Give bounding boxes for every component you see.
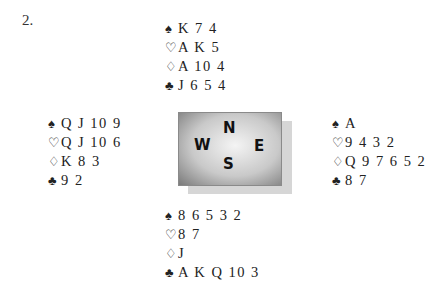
west-hand: ♠Q J 10 9 ♡Q J 10 6 ♢K 8 3 ♣9 2 — [48, 114, 122, 190]
south-clubs: ♣A K Q 10 3 — [165, 263, 260, 282]
heart-icon: ♡ — [48, 133, 61, 152]
diamond-icon: ♢ — [48, 152, 61, 171]
north-hearts: ♡A K 5 — [165, 38, 227, 57]
east-diamonds: ♢Q 9 7 6 5 2 — [332, 152, 426, 171]
diamond-icon: ♢ — [332, 152, 345, 171]
spade-icon: ♠ — [165, 19, 178, 38]
north-diamonds: ♢A 10 4 — [165, 57, 227, 76]
west-diamonds: ♢K 8 3 — [48, 152, 122, 171]
compass-north-label: N — [223, 119, 236, 137]
west-clubs: ♣9 2 — [48, 171, 122, 190]
club-icon: ♣ — [48, 171, 61, 190]
compass-box: N W E S — [178, 112, 282, 186]
south-diamonds: ♢J — [165, 244, 260, 263]
spade-icon: ♠ — [165, 206, 178, 225]
north-hand: ♠K 7 4 ♡A K 5 ♢A 10 4 ♣J 6 5 4 — [165, 19, 227, 95]
spade-icon: ♠ — [48, 114, 61, 133]
heart-icon: ♡ — [332, 133, 345, 152]
club-icon: ♣ — [332, 171, 345, 190]
problem-number: 2. — [22, 12, 33, 29]
heart-icon: ♡ — [165, 38, 178, 57]
west-spades: ♠Q J 10 9 — [48, 114, 122, 133]
south-hand: ♠8 6 5 3 2 ♡8 7 ♢J ♣A K Q 10 3 — [165, 206, 260, 282]
south-hearts: ♡8 7 — [165, 225, 260, 244]
compass-west-label: W — [194, 136, 211, 154]
club-icon: ♣ — [165, 263, 178, 282]
east-clubs: ♣8 7 — [332, 171, 426, 190]
west-hearts: ♡Q J 10 6 — [48, 133, 122, 152]
diamond-icon: ♢ — [165, 244, 178, 263]
heart-icon: ♡ — [165, 225, 178, 244]
south-spades: ♠8 6 5 3 2 — [165, 206, 260, 225]
north-clubs: ♣J 6 5 4 — [165, 76, 227, 95]
compass-east-label: E — [254, 137, 264, 155]
east-spades: ♠A — [332, 114, 426, 133]
spade-icon: ♠ — [332, 114, 345, 133]
club-icon: ♣ — [165, 76, 178, 95]
north-spades: ♠K 7 4 — [165, 19, 227, 38]
east-hearts: ♡9 4 3 2 — [332, 133, 426, 152]
compass-south-label: S — [223, 155, 234, 173]
east-hand: ♠A ♡9 4 3 2 ♢Q 9 7 6 5 2 ♣8 7 — [332, 114, 426, 190]
diamond-icon: ♢ — [165, 57, 178, 76]
